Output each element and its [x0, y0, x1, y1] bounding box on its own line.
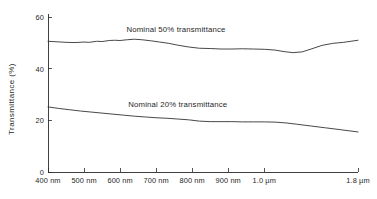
x-tick-label: 500 nm: [71, 176, 96, 185]
data-series-group: [48, 39, 358, 132]
y-tick-label: 20: [36, 116, 44, 125]
x-tick-label: 400 nm: [35, 176, 60, 185]
y-tick-label: 0: [40, 168, 44, 177]
y-tick-label: 40: [36, 65, 44, 74]
x-tick-label: 800 nm: [180, 176, 205, 185]
x-axis-ticks: 400 nm500 nm600 nm700 nm800 nm900 nm1.0 …: [35, 168, 369, 185]
series-annotations: Nominal 50% transmittanceNominal 20% tra…: [126, 25, 227, 109]
chart-plot-area: 400 nm500 nm600 nm700 nm800 nm900 nm1.0 …: [0, 0, 377, 199]
x-tick-label: 1.0 µm: [253, 176, 276, 185]
data-curve: [48, 107, 358, 132]
y-axis-title: Transmittance (%): [7, 63, 16, 135]
series-label: Nominal 50% transmittance: [126, 25, 225, 34]
x-tick-label: 1.8 µm: [346, 176, 369, 185]
y-axis-ticks: 0204060: [36, 13, 52, 177]
x-tick-label: 700 nm: [144, 176, 169, 185]
y-tick-label: 60: [36, 13, 44, 22]
x-tick-label: 900 nm: [216, 176, 241, 185]
data-curve: [48, 39, 358, 52]
series-label: Nominal 20% transmittance: [128, 100, 227, 109]
x-tick-label: 600 nm: [107, 176, 132, 185]
transmittance-chart: 400 nm500 nm600 nm700 nm800 nm900 nm1.0 …: [0, 0, 377, 199]
axes-group: [48, 14, 358, 172]
